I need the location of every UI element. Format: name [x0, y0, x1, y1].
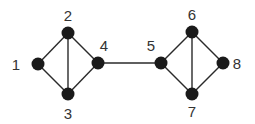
node-5 [155, 57, 168, 70]
node-label-6: 6 [188, 6, 196, 23]
node-3 [62, 88, 75, 101]
node-label-3: 3 [64, 105, 72, 122]
node-8 [217, 57, 230, 70]
node-label-1: 1 [12, 56, 20, 73]
node-label-5: 5 [147, 37, 155, 54]
node-4 [92, 57, 105, 70]
node-7 [186, 88, 199, 101]
node-1 [32, 58, 45, 71]
edge-5-7 [161, 63, 192, 94]
labels-group: 12345678 [12, 6, 241, 122]
edges-group [38, 32, 223, 94]
graph-diagram: 12345678 [0, 0, 255, 124]
edge-6-8 [192, 32, 223, 63]
node-2 [62, 27, 75, 40]
node-label-8: 8 [233, 55, 241, 72]
node-label-7: 7 [188, 103, 196, 120]
node-6 [186, 26, 199, 39]
edge-7-8 [192, 63, 223, 94]
node-label-4: 4 [100, 37, 108, 54]
edge-5-6 [161, 32, 192, 63]
node-label-2: 2 [64, 7, 72, 24]
